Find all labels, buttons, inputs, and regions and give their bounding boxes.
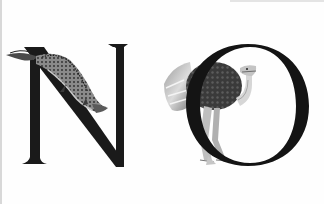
artwork-svg — [0, 0, 324, 204]
artwork-canvas: NO — [0, 0, 324, 204]
